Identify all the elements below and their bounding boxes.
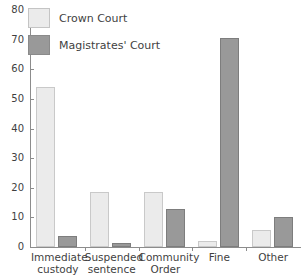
bar-crown-court: [144, 192, 163, 247]
bar-magistrates-court: [58, 236, 77, 247]
bar-crown-court: [90, 192, 109, 247]
legend-item-crown-court: Crown Court: [28, 8, 160, 28]
x-axis-label: Community Order: [139, 251, 193, 275]
y-tick-label: 20: [0, 183, 24, 193]
y-tick-label: 70: [0, 35, 24, 45]
bar-chart: 01020304050607080 Immediate custodySuspe…: [0, 0, 303, 276]
x-axis-label: Other: [246, 251, 300, 263]
legend-swatch-magistrates-court: [28, 35, 50, 55]
bar-group: [191, 10, 245, 247]
x-axis-label: Suspended sentence: [85, 251, 139, 275]
bar-crown-court: [36, 87, 55, 247]
legend-item-magistrates-court: Magistrates' Court: [28, 35, 160, 55]
legend-swatch-crown-court: [28, 8, 50, 28]
y-tick-label: 10: [0, 212, 24, 222]
bar-magistrates-court: [274, 217, 293, 247]
x-axis-label: Immediate custody: [31, 251, 85, 275]
legend-label-crown-court: Crown Court: [59, 13, 127, 24]
y-tick-label: 0: [0, 242, 24, 252]
y-tick-label: 60: [0, 64, 24, 74]
y-tick-label: 40: [0, 124, 24, 134]
y-tick-label: 30: [0, 153, 24, 163]
x-axis-label: Fine: [192, 251, 246, 263]
y-tick-label: 80: [0, 5, 24, 15]
bar-magistrates-court: [112, 243, 131, 247]
chart-legend: Crown Court Magistrates' Court: [28, 8, 160, 62]
y-tick-label: 50: [0, 94, 24, 104]
bar-crown-court: [198, 241, 217, 247]
legend-label-magistrates-court: Magistrates' Court: [59, 40, 160, 51]
bar-crown-court: [252, 230, 271, 247]
x-axis-line: [30, 247, 301, 248]
bar-magistrates-court: [220, 38, 239, 247]
bar-group: [245, 10, 299, 247]
y-tick-mark: [30, 247, 34, 248]
bar-magistrates-court: [166, 209, 185, 248]
